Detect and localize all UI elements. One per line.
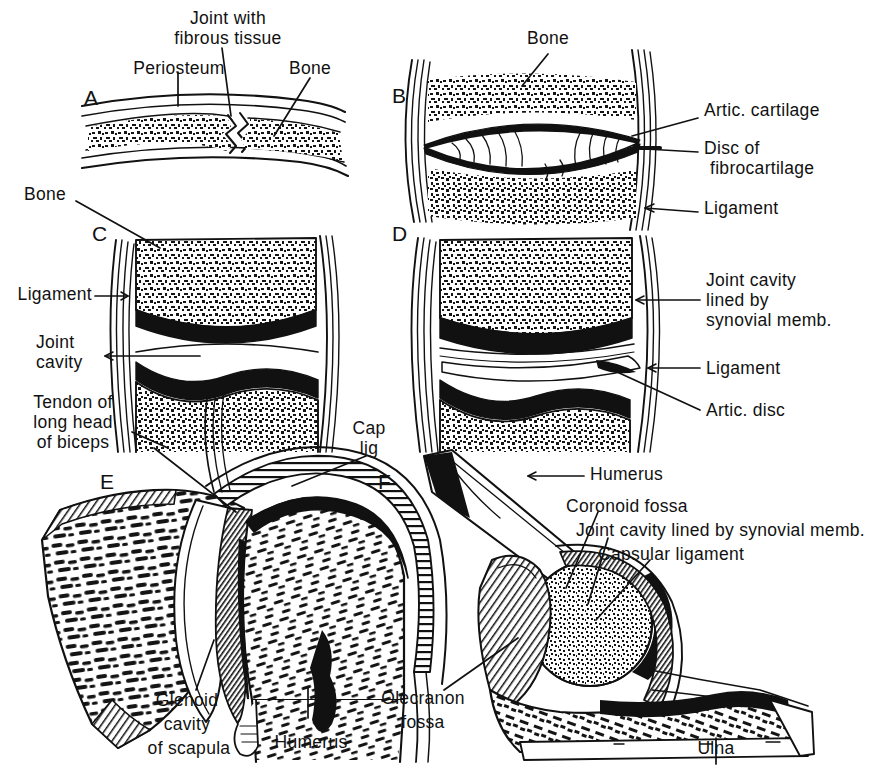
panel-c-artwork xyxy=(110,236,339,452)
label-bone-a: Bone xyxy=(272,58,348,78)
panel-letter-e: E xyxy=(100,470,114,494)
label-olecranon-2: fossa xyxy=(358,712,488,732)
label-joint-cavity-2: cavity xyxy=(36,352,83,372)
label-bone-b: Bone xyxy=(508,28,588,48)
panel-letter-f: F xyxy=(378,470,391,494)
label-glenoid-2: cavity xyxy=(124,714,250,734)
label-humerus-e: Humerus xyxy=(256,732,366,752)
label-joint-cavity-syn-3: synovial memb. xyxy=(706,310,832,330)
label-joint-cavity-syn-2: lined by xyxy=(706,290,769,310)
label-bone-c: Bone xyxy=(24,184,66,204)
label-artic-disc: Artic. disc xyxy=(706,400,785,420)
label-joint-fibrous-2: fibrous tissue xyxy=(140,28,316,48)
label-tendon-3: of biceps xyxy=(8,432,138,452)
label-joint-cavity-syn-1: Joint cavity xyxy=(706,270,796,290)
label-joint-fibrous-1: Joint with xyxy=(148,8,308,28)
label-joint-cavity-1: Joint xyxy=(36,332,74,352)
label-tendon-1: Tendon of xyxy=(8,392,138,412)
panel-letter-d: D xyxy=(392,222,407,246)
panel-letter-c: C xyxy=(92,222,107,246)
panel-d-artwork xyxy=(411,236,659,452)
panel-a-artwork xyxy=(82,94,348,176)
label-ligament-b: Ligament xyxy=(704,198,778,218)
panel-letter-b: B xyxy=(392,84,406,108)
anatomical-plate: A B C D E F Periosteum Joint with fibrou… xyxy=(0,0,876,771)
label-glenoid-1: Glenoid xyxy=(124,690,250,710)
label-tendon-2: long head xyxy=(8,412,138,432)
panel-b-artwork xyxy=(405,50,656,230)
label-ligament-d: Ligament xyxy=(706,358,780,378)
label-glenoid-3: of scapula xyxy=(114,738,264,758)
label-disc-1: Disc of xyxy=(704,138,760,158)
label-cap-lig-1: Cap xyxy=(336,418,402,438)
label-periosteum: Periosteum xyxy=(100,58,258,78)
label-ulna: Ulna xyxy=(664,738,768,758)
label-ligament-c: Ligament xyxy=(0,284,92,304)
label-coronoid-fossa: Coronoid fossa xyxy=(566,496,688,516)
label-olecranon-1: Olecranon xyxy=(358,688,488,708)
label-disc-2: fibrocartilage xyxy=(710,158,814,178)
label-humerus-f: Humerus xyxy=(590,464,663,484)
panel-letter-a: A xyxy=(84,86,98,110)
label-cap-lig-2: lig xyxy=(336,438,402,458)
label-joint-cavity-f: Joint cavity lined by synovial memb. xyxy=(576,520,865,540)
label-artic-cartilage: Artic. cartilage xyxy=(704,100,820,120)
label-capsular-ligament: Capsular ligament xyxy=(598,544,744,564)
